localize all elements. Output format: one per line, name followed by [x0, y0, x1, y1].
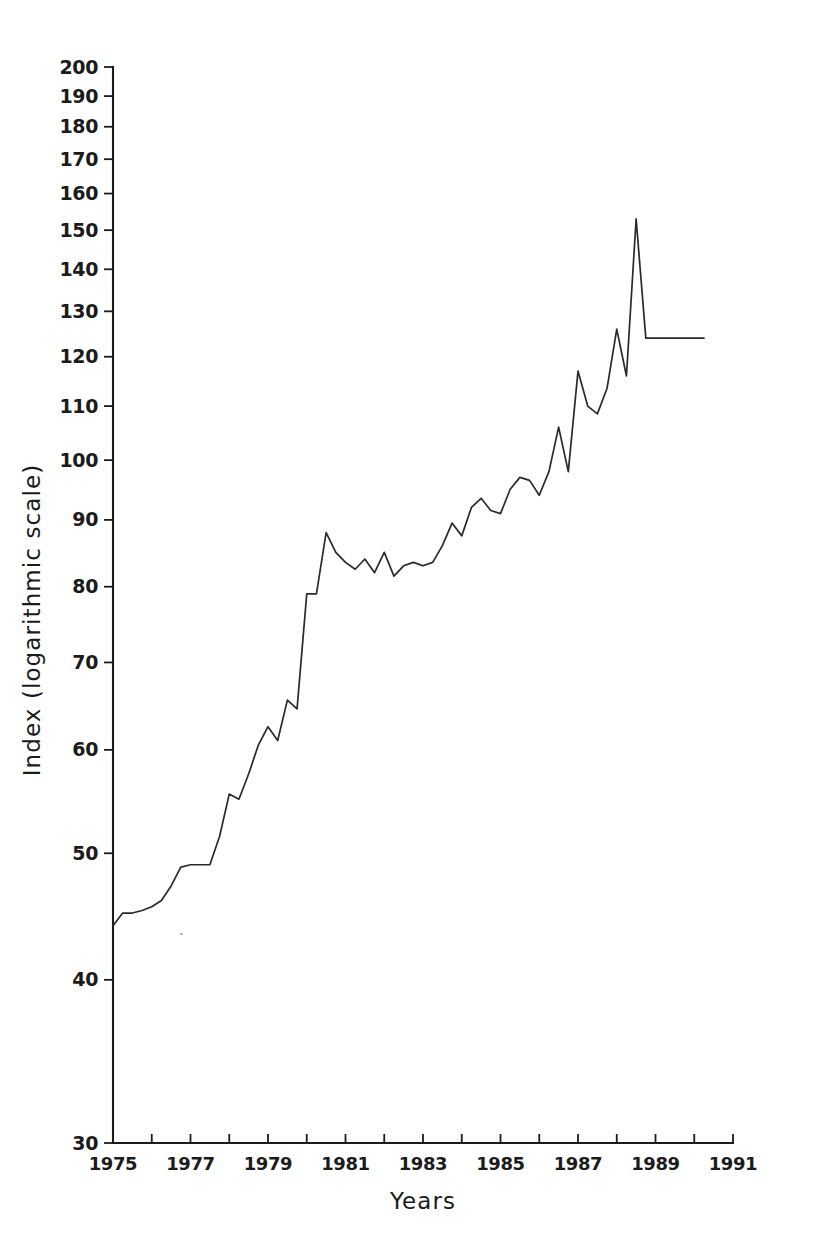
- y-tick-label-100: 100: [60, 449, 99, 471]
- x-axis-tick-labels: 197519771979198119831985198719891991: [89, 1153, 758, 1174]
- x-tick-label-1979: 1979: [244, 1153, 293, 1174]
- x-tick-label-1977: 1977: [166, 1153, 215, 1174]
- y-tick-label-170: 170: [60, 148, 99, 170]
- x-tick-label-1985: 1985: [476, 1153, 525, 1174]
- y-axis-ticks: [104, 67, 113, 1143]
- y-tick-label-50: 50: [72, 842, 98, 864]
- y-axis-title: Index (logarithmic scale): [19, 464, 45, 777]
- y-axis-tick-labels: 3040506070809010011012013014015016017018…: [60, 56, 99, 1154]
- line-chart-canvas: 3040506070809010011012013014015016017018…: [0, 0, 813, 1256]
- x-axis-title: Years: [389, 1188, 456, 1214]
- y-tick-label-110: 110: [60, 395, 99, 417]
- y-tick-label-160: 160: [60, 182, 99, 204]
- x-tick-label-1987: 1987: [554, 1153, 603, 1174]
- y-tick-label-40: 40: [72, 968, 98, 990]
- y-tick-label-80: 80: [72, 575, 98, 597]
- series-index-line: [113, 219, 704, 926]
- x-tick-label-1975: 1975: [89, 1153, 138, 1174]
- y-tick-label-130: 130: [60, 300, 99, 322]
- y-tick-label-70: 70: [72, 651, 98, 673]
- x-tick-label-1991: 1991: [709, 1153, 758, 1174]
- y-tick-label-140: 140: [60, 258, 99, 280]
- x-tick-label-1983: 1983: [399, 1153, 448, 1174]
- y-tick-label-180: 180: [60, 115, 99, 137]
- y-tick-label-30: 30: [72, 1132, 98, 1154]
- x-tick-label-1981: 1981: [321, 1153, 370, 1174]
- y-tick-label-150: 150: [60, 219, 99, 241]
- chart-figure: 3040506070809010011012013014015016017018…: [0, 0, 813, 1256]
- x-axis-ticks: [113, 1134, 733, 1143]
- y-tick-label-60: 60: [72, 738, 98, 760]
- y-tick-label-200: 200: [60, 56, 99, 78]
- x-tick-label-1989: 1989: [631, 1153, 680, 1174]
- y-tick-label-90: 90: [72, 508, 98, 530]
- scan-speck: [180, 933, 183, 935]
- y-tick-label-120: 120: [60, 345, 99, 367]
- y-tick-label-190: 190: [60, 85, 99, 107]
